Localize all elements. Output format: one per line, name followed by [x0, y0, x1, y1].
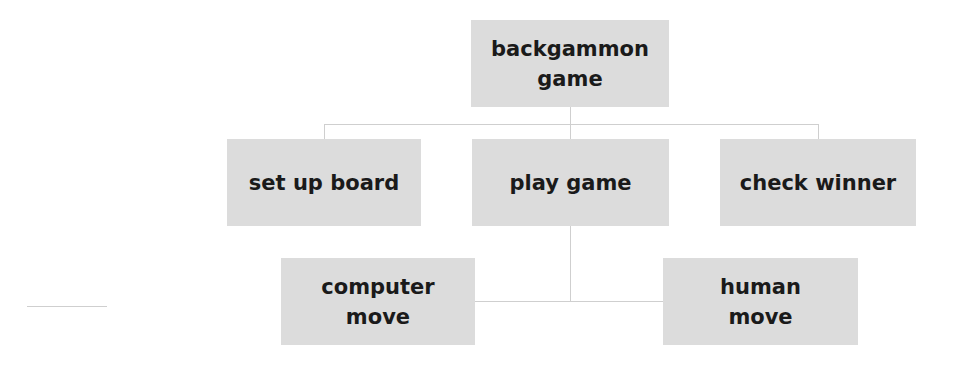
connector-root-down: [570, 107, 571, 124]
stray-line: [27, 306, 107, 307]
node-check-winner: check winner: [720, 139, 916, 226]
node-backgammon-game: backgammon game: [471, 20, 669, 107]
connector-level1-bus: [324, 124, 819, 125]
connector-setup: [324, 124, 325, 139]
connector-play: [570, 124, 571, 139]
connector-check: [818, 124, 819, 139]
node-human-move: human move: [663, 258, 858, 345]
node-computer-move: computer move: [281, 258, 475, 345]
connector-play-down: [570, 226, 571, 301]
node-set-up-board: set up board: [227, 139, 421, 226]
connector-level2-bus: [475, 301, 663, 302]
node-play-game: play game: [472, 139, 669, 226]
